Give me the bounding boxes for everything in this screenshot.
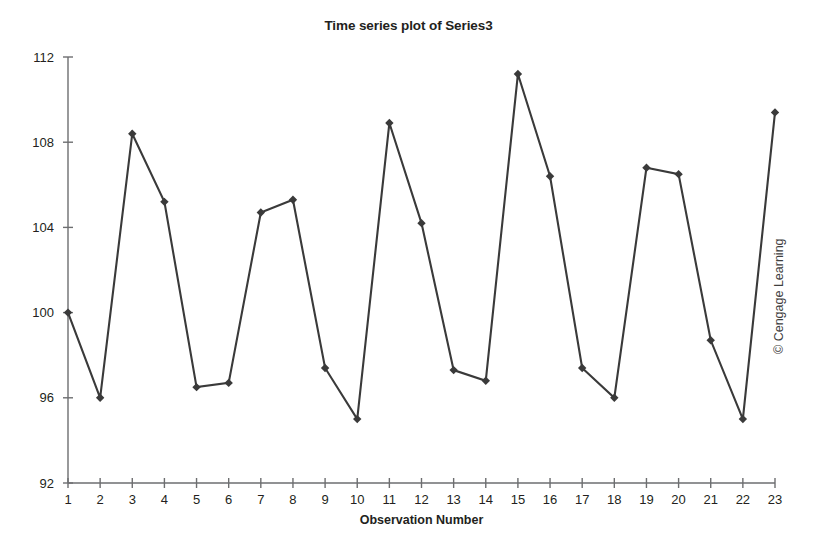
data-point-marker [546,172,554,180]
data-point-marker [417,219,425,227]
y-tick-label: 104 [8,221,54,234]
x-tick-label: 19 [631,493,661,506]
x-tick-label: 7 [246,493,276,506]
x-tick-label: 1 [53,493,83,506]
x-tick-label: 17 [567,493,597,506]
y-tick-label: 92 [8,477,54,490]
data-point-marker [96,394,104,402]
x-tick-label: 13 [439,493,469,506]
x-tick-label: 4 [149,493,179,506]
x-tick-label: 8 [278,493,308,506]
x-tick-label: 15 [503,493,533,506]
axes [63,57,775,488]
x-tick-label: 2 [85,493,115,506]
plot-area [0,0,817,544]
x-tick-label: 21 [696,493,726,506]
x-tick-label: 16 [535,493,565,506]
data-point-marker [160,198,168,206]
series-line-series3 [68,74,775,419]
chart-figure: Time series plot of Series3 Series3 Obse… [0,0,817,544]
x-tick-label: 9 [310,493,340,506]
x-tick-label: 22 [728,493,758,506]
data-point-marker [289,196,297,204]
data-point-marker [385,119,393,127]
y-tick-label: 96 [8,391,54,404]
data-point-marker [257,208,265,216]
x-tick-label: 20 [664,493,694,506]
y-tick-label: 100 [8,306,54,319]
x-tick-label: 23 [760,493,790,506]
data-point-marker [642,164,650,172]
data-point-marker [128,129,136,137]
data-point-marker [64,308,72,316]
x-tick-label: 6 [214,493,244,506]
data-point-marker [674,170,682,178]
data-point-marker [771,108,779,116]
x-tick-label: 11 [374,493,404,506]
data-point-marker [192,383,200,391]
x-tick-label: 10 [342,493,372,506]
x-tick-label: 5 [182,493,212,506]
data-point-marker [482,377,490,385]
x-tick-label: 12 [407,493,437,506]
x-tick-label: 14 [471,493,501,506]
y-tick-label: 108 [8,136,54,149]
data-point-marker [449,366,457,374]
x-tick-label: 3 [117,493,147,506]
data-point-marker [739,415,747,423]
data-point-marker [707,336,715,344]
data-point-marker [514,70,522,78]
x-tick-label: 18 [599,493,629,506]
data-point-marker [224,379,232,387]
y-tick-label: 112 [8,51,54,64]
